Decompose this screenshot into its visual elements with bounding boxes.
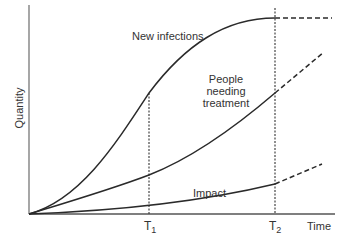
people-needing-treatment-label: People needing treatment — [196, 73, 256, 109]
t2-tick-label: T2 — [269, 219, 281, 235]
impact-label: Impact — [193, 187, 226, 199]
people-needing-treatment-projection — [275, 52, 324, 93]
y-axis-label: Quantity — [13, 83, 25, 133]
people-label-line3: treatment — [196, 97, 256, 109]
people-label-line2: needing — [196, 85, 256, 97]
new-infections-label: New infections — [132, 30, 204, 42]
impact-projection — [275, 164, 322, 184]
x-axis-label: Time — [307, 220, 331, 232]
new-infections-curve — [29, 18, 275, 214]
people-label-line1: People — [196, 73, 256, 85]
t1-tick-label: T1 — [144, 219, 156, 235]
impact-curve — [29, 184, 275, 214]
